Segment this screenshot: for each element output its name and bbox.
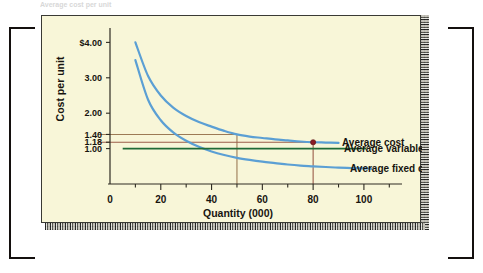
y-tick-label-5: 1.00 — [84, 144, 102, 154]
x-tick-label-4: 80 — [308, 194, 320, 205]
x-axis-title: Quantity (000) — [203, 207, 273, 219]
cost-curves-chart: $4.003.002.001.401.181.00020406080100Qua… — [42, 16, 422, 224]
chart-panel: $4.003.002.001.401.181.00020406080100Qua… — [41, 15, 421, 223]
bracket-frame-right — [448, 27, 474, 259]
bracket-frame-left — [9, 27, 35, 259]
x-tick-label-5: 100 — [356, 194, 373, 205]
y-tick-label-2: 2.00 — [84, 108, 102, 118]
series-curve-average-fixed-cost — [135, 60, 371, 169]
y-tick-label-0: $4.00 — [79, 38, 102, 48]
label-average-fixed-cost: Average fixed cost — [350, 163, 422, 174]
scan-noise-bottom — [45, 223, 425, 230]
figure-root: Average cost per unit $4.003.002.001.401… — [0, 0, 483, 273]
x-tick-label-1: 20 — [155, 194, 167, 205]
y-axis-title: Cost per unit — [54, 56, 66, 121]
plot-area: $4.003.002.001.401.181.00020406080100Qua… — [42, 16, 422, 224]
cropped-caption-sliver: Average cost per unit — [40, 0, 190, 9]
average-cost-point — [311, 140, 316, 145]
y-tick-label-1: 3.00 — [84, 73, 102, 83]
x-tick-label-0: 0 — [107, 194, 113, 205]
label-average-variable-cost: Average variable cost — [344, 143, 422, 154]
series-curve-average-cost — [135, 42, 338, 143]
x-tick-label-3: 60 — [257, 194, 269, 205]
scan-noise-right — [421, 15, 429, 230]
x-tick-label-2: 40 — [206, 194, 218, 205]
